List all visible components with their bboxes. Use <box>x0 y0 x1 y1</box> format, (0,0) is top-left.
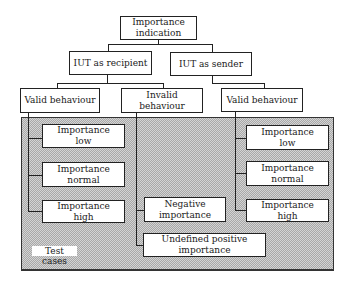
test-case-sender-importance-low: Importance low <box>246 125 329 150</box>
connector <box>212 76 213 83</box>
node-label: Importance <box>132 17 185 28</box>
node-label: Importance <box>57 164 110 175</box>
node-label: high <box>277 211 297 222</box>
connector <box>136 210 144 211</box>
node-label: normal <box>67 175 99 186</box>
node-label: normal <box>271 174 303 185</box>
node-sender-valid-behaviour: Valid behaviour <box>221 88 303 112</box>
node-label: Invalid behaviour <box>124 90 200 112</box>
connector <box>235 138 246 139</box>
connector <box>28 113 29 212</box>
test-case-negative-importance: Negative importance <box>144 197 226 222</box>
connector <box>57 83 164 84</box>
connector <box>235 210 246 211</box>
test-cases-label: Test cases <box>32 246 77 256</box>
node-label: Importance <box>261 163 314 174</box>
test-case-recipient-importance-high: Importance high <box>42 200 125 223</box>
node-label: Importance <box>261 200 314 211</box>
connector <box>235 112 236 211</box>
connector <box>212 83 265 84</box>
test-case-sender-importance-high: Importance high <box>246 199 329 222</box>
node-recipient-invalid-behaviour: Invalid behaviour <box>121 88 203 113</box>
test-case-recipient-importance-low: Importance low <box>42 124 125 148</box>
test-case-recipient-importance-normal: Importance normal <box>42 162 125 187</box>
node-label: Importance <box>261 127 314 138</box>
connector <box>28 175 42 176</box>
connector <box>235 173 246 174</box>
node-label: importance <box>159 210 211 221</box>
connector <box>212 44 213 52</box>
node-label: IUT as recipient <box>74 58 148 69</box>
node-label: low <box>75 136 91 147</box>
connector <box>108 44 213 45</box>
node-label: Importance <box>57 201 110 212</box>
test-case-sender-importance-normal: Importance normal <box>246 161 329 186</box>
connector <box>28 138 42 139</box>
node-label: indication <box>136 28 181 39</box>
connector <box>107 75 108 83</box>
node-label: Valid behaviour <box>24 95 95 106</box>
node-label: importance <box>178 245 230 256</box>
node-label: low <box>279 138 295 149</box>
test-case-undefined-positive-importance: Undefined positive importance <box>143 233 266 257</box>
connector <box>108 44 109 51</box>
node-label: Undefined positive <box>162 234 248 245</box>
node-iut-as-sender: IUT as sender <box>170 52 252 76</box>
node-recipient-valid-behaviour: Valid behaviour <box>20 88 100 113</box>
connector <box>136 112 137 246</box>
node-label: Negative <box>164 199 205 210</box>
node-label: IUT as sender <box>179 59 243 70</box>
node-label: Importance <box>57 125 110 136</box>
connector <box>28 211 42 212</box>
node-iut-as-recipient: IUT as recipient <box>69 51 152 75</box>
node-importance-indication: Importance indication <box>120 16 197 40</box>
node-label: high <box>73 212 93 223</box>
node-label: Valid behaviour <box>226 95 297 106</box>
